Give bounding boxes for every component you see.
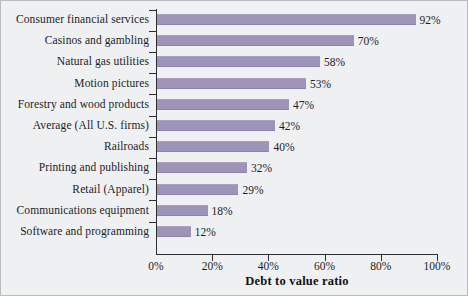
bar-value-label: 12% bbox=[195, 221, 216, 242]
bar bbox=[157, 141, 269, 152]
y-axis-tick bbox=[149, 200, 157, 201]
y-axis-tick bbox=[149, 94, 157, 95]
bar-value-label: 53% bbox=[310, 73, 331, 94]
category-label: Retail (Apparel) bbox=[1, 179, 149, 200]
category-label: Casinos and gambling bbox=[1, 30, 149, 51]
x-axis-tick-label: 100% bbox=[415, 260, 459, 272]
bar-row: Software and programming12% bbox=[1, 221, 468, 242]
bar-row: Printing and publishing32% bbox=[1, 157, 468, 178]
bar bbox=[157, 226, 191, 237]
y-axis-tick bbox=[149, 52, 157, 53]
bar-row: Consumer financial services92% bbox=[1, 9, 468, 30]
y-axis-tick bbox=[149, 73, 157, 74]
x-axis-tick-label: 0% bbox=[134, 260, 178, 272]
x-axis-title: Debt to value ratio bbox=[156, 274, 438, 289]
bar bbox=[157, 120, 275, 131]
category-label: Communications equipment bbox=[1, 200, 149, 221]
bar-row: Average (All U.S. firms)42% bbox=[1, 115, 468, 136]
category-label: Average (All U.S. firms) bbox=[1, 115, 149, 136]
category-label: Printing and publishing bbox=[1, 157, 149, 178]
bar-row: Casinos and gambling70% bbox=[1, 30, 468, 51]
bar-value-label: 32% bbox=[251, 157, 272, 178]
category-label: Railroads bbox=[1, 136, 149, 157]
category-label: Forestry and wood products bbox=[1, 94, 149, 115]
bar-row: Motion pictures53% bbox=[1, 73, 468, 94]
x-axis-tick-label: 60% bbox=[303, 260, 347, 272]
category-label: Motion pictures bbox=[1, 73, 149, 94]
category-label: Natural gas utilities bbox=[1, 51, 149, 72]
x-axis-tick-label: 40% bbox=[246, 260, 290, 272]
bar-row: Retail (Apparel)29% bbox=[1, 179, 468, 200]
y-axis-tick bbox=[149, 116, 157, 117]
x-axis-line bbox=[156, 254, 438, 255]
y-axis-tick bbox=[149, 31, 157, 32]
y-axis-tick bbox=[149, 179, 157, 180]
bar-value-label: 70% bbox=[358, 30, 379, 51]
bar bbox=[157, 14, 416, 25]
x-axis-tick-label: 80% bbox=[359, 260, 403, 272]
x-axis-tick-label: 20% bbox=[190, 260, 234, 272]
bar bbox=[157, 99, 289, 110]
chart-figure: Consumer financial services92%Casinos an… bbox=[0, 0, 468, 296]
bar-row: Forestry and wood products47% bbox=[1, 94, 468, 115]
bar bbox=[157, 205, 208, 216]
category-label: Software and programming bbox=[1, 221, 149, 242]
y-axis-tick bbox=[149, 158, 157, 159]
bar bbox=[157, 56, 320, 67]
bar-value-label: 47% bbox=[293, 94, 314, 115]
bar-value-label: 18% bbox=[212, 200, 233, 221]
bar bbox=[157, 35, 354, 46]
y-axis-tick bbox=[149, 222, 157, 223]
bar-row: Communications equipment18% bbox=[1, 200, 468, 221]
bar bbox=[157, 78, 306, 89]
category-label: Consumer financial services bbox=[1, 9, 149, 30]
bar-value-label: 42% bbox=[279, 115, 300, 136]
bar-value-label: 29% bbox=[242, 179, 263, 200]
bar-value-label: 92% bbox=[420, 9, 441, 30]
bar bbox=[157, 184, 238, 195]
y-axis-tick bbox=[149, 10, 157, 11]
bar-row: Natural gas utilities58% bbox=[1, 51, 468, 72]
plot-area: Consumer financial services92%Casinos an… bbox=[1, 1, 468, 296]
bar-row: Railroads40% bbox=[1, 136, 468, 157]
bar bbox=[157, 162, 247, 173]
y-axis-tick bbox=[149, 137, 157, 138]
bar-value-label: 58% bbox=[324, 51, 345, 72]
bar-value-label: 40% bbox=[273, 136, 294, 157]
